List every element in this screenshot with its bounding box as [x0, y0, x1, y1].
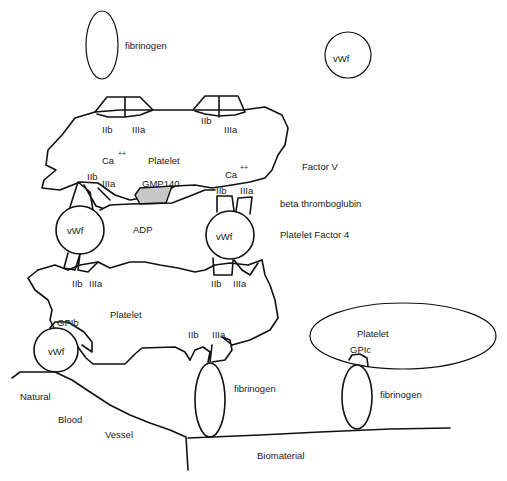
receptor-top-left	[95, 97, 153, 117]
platelet-diagram: fibrinogen vWf IIb IIIa IIb IIIa Ca ++ P…	[0, 0, 507, 481]
platelet-factor-4-label: Platelet Factor 4	[280, 229, 349, 240]
platelet-bottom-label: Platelet	[110, 309, 142, 320]
fibrinogen-bottom-label: fibrinogen	[234, 383, 276, 394]
gpic-label: GPIc	[350, 344, 371, 355]
iib-label: IIb	[102, 124, 113, 135]
vwf-free-label: vWf	[333, 53, 350, 64]
iib-label: IIb	[188, 329, 199, 340]
vwf-left-label: vWf	[67, 225, 84, 236]
gmp140-shape	[135, 186, 172, 204]
iib-label: IIb	[211, 278, 222, 289]
adp-label: ADP	[133, 224, 153, 235]
receptor-right-lower	[213, 258, 258, 275]
iib-label: IIb	[87, 171, 98, 182]
vwf-right-label: vWf	[216, 231, 233, 242]
fibrinogen-bottom-shape	[195, 363, 225, 437]
calcium2-label: Ca	[225, 169, 238, 180]
platelet-bottom-top-edge	[38, 260, 262, 272]
platelet-top-label: Platelet	[148, 155, 180, 166]
calcium2-charge: ++	[240, 164, 248, 171]
beta-thromboglubin-label: beta thromboglubin	[280, 198, 361, 209]
calcium-label: Ca	[102, 155, 115, 166]
platelet-biomaterial-shape	[310, 303, 496, 369]
fibrinogen-free-label: fibrinogen	[125, 40, 167, 51]
iib-label: IIb	[201, 115, 212, 126]
biomaterial-label: Biomaterial	[257, 450, 305, 461]
natural-vessel-surface	[12, 372, 188, 470]
blood-label: Blood	[58, 414, 82, 425]
receptor-right-upper	[217, 196, 252, 214]
calcium-charge: ++	[118, 150, 126, 157]
fibrinogen-free-shape	[86, 11, 118, 79]
receptor-top-right	[193, 96, 245, 117]
vessel-label: Vessel	[105, 429, 133, 440]
fibrinogen-biomaterial-label: fibrinogen	[380, 389, 422, 400]
vwf-gpib-label: vWf	[48, 346, 65, 357]
factor-v-label: Factor V	[302, 161, 339, 172]
iiia-label: IIIa	[240, 185, 254, 196]
iiia-label: IIIa	[233, 278, 247, 289]
platelet-biomaterial-label: Platelet	[357, 328, 389, 339]
gpib-label: GPIb	[57, 317, 79, 328]
biomaterial-surface	[188, 428, 450, 438]
iiia-label: IIIa	[102, 178, 116, 189]
iiia-label: IIIa	[224, 124, 238, 135]
fibrinogen-biomaterial-shape	[342, 365, 372, 429]
iiia-label: IIIa	[89, 278, 103, 289]
iib-label: IIb	[216, 185, 227, 196]
iiia-label: IIIa	[132, 124, 146, 135]
iib-label: IIb	[72, 278, 83, 289]
natural-label: Natural	[20, 391, 51, 402]
receptor-bottom-fib	[190, 337, 232, 362]
